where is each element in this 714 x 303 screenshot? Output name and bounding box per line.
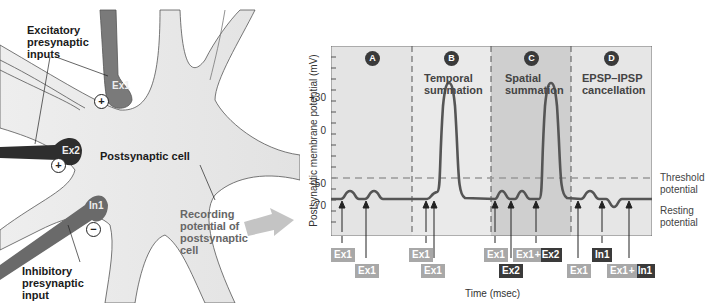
stimulus-tag-ex1-in1: Ex1 + In1 (607, 264, 655, 278)
postsynaptic-cell-label: Postsynaptic cell (100, 150, 190, 162)
tag-part-ex1: Ex1 (513, 248, 535, 262)
stimulus-tag-ex1: Ex1 (421, 264, 445, 278)
threshold-potential-label: Threshold potential (660, 172, 704, 196)
title-line: summation (424, 84, 483, 96)
title-line: summation (505, 84, 564, 96)
minus-sign-icon: − (86, 222, 101, 237)
excitatory-inputs-label: Excitatory presynaptic inputs (27, 24, 89, 60)
label-line: presynaptic (22, 277, 84, 289)
stimulus-tag-in1: In1 (592, 248, 612, 262)
label-line: input (22, 289, 84, 301)
stimulus-tag-ex1: Ex1 (331, 248, 355, 262)
stimulus-tag-ex1: Ex1 (484, 248, 508, 262)
panel-a-badge: A (365, 51, 380, 66)
tag-part-ex2: Ex2 (541, 248, 563, 262)
stimulus-tag-ex1-ex2: Ex1 + Ex2 (513, 248, 562, 262)
title-line: Spatial (505, 72, 564, 84)
ex2-terminal-label: Ex2 (62, 145, 80, 156)
title-line: Temporal (424, 72, 483, 84)
stimulus-tag-ex2: Ex2 (499, 264, 523, 278)
label-line: Excitatory (27, 24, 89, 36)
inhibitory-input-label: Inhibitory presynaptic input (22, 265, 84, 301)
label-line: presynaptic (27, 36, 89, 48)
label-line: potential of (180, 220, 248, 232)
label-line: Resting (660, 205, 698, 217)
plus-sign-icon: + (94, 94, 109, 109)
arrow-right-icon (242, 206, 296, 240)
label-line: Recording (180, 208, 248, 220)
label-line: cell (180, 244, 248, 256)
stimulus-tag-ex1: Ex1 (355, 264, 379, 278)
title-line: EPSP–IPSP (582, 72, 646, 84)
label-line: inputs (27, 48, 89, 60)
panel-b-badge: B (444, 51, 459, 66)
panel-d-title: EPSP–IPSP cancellation (582, 72, 646, 96)
y-axis-label: Postsynaptic membrane potential (mV) (308, 46, 319, 236)
tag-part-ex1: Ex1 (607, 264, 629, 278)
resting-potential-label: Resting potential (660, 205, 698, 229)
stimulus-tag-ex1: Ex1 (567, 264, 591, 278)
panel-c-title: Spatial summation (505, 72, 564, 96)
label-line: potential (660, 217, 698, 229)
title-line: cancellation (582, 84, 646, 96)
panel-b-title: Temporal summation (424, 72, 483, 96)
panel-d-badge: D (604, 51, 619, 66)
label-line: Inhibitory (22, 265, 84, 277)
tag-plus: + (629, 264, 637, 278)
plus-sign-icon: + (51, 158, 66, 173)
label-line: potential (660, 184, 704, 196)
ex1-terminal-label: Ex1 (112, 80, 130, 91)
label-line: Threshold (660, 172, 704, 184)
x-axis-label: Time (msec) (465, 288, 520, 299)
label-line: postsynaptic (180, 232, 248, 244)
recording-label: Recording potential of postsynaptic cell (180, 208, 248, 256)
panel-c-badge: C (524, 51, 539, 66)
stimulus-tag-ex1: Ex1 (409, 248, 433, 262)
in1-terminal-label: In1 (89, 200, 103, 211)
tag-part-in1: In1 (637, 264, 655, 278)
